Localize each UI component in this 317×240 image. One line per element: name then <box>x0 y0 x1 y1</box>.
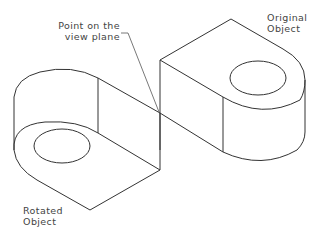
label-view-point-line1: Point on the <box>50 20 120 31</box>
label-view-point-line2: view plane <box>50 31 120 42</box>
label-view-point: Point on the view plane <box>50 20 120 42</box>
rotated-bottom-face <box>14 122 160 210</box>
original-bottom-edge <box>160 113 305 161</box>
label-original-object: Original Object <box>267 12 307 34</box>
label-rotated-line2: Object <box>23 216 63 227</box>
original-object <box>160 19 305 161</box>
label-rotated-object: Rotated Object <box>23 205 63 227</box>
original-hole <box>230 61 286 95</box>
rotated-object <box>14 69 160 210</box>
label-original-line1: Original <box>267 12 307 23</box>
rotated-hole <box>34 129 90 163</box>
label-rotated-line1: Rotated <box>23 205 63 216</box>
diagram-canvas <box>0 0 317 240</box>
label-original-line2: Object <box>267 23 307 34</box>
leader-line <box>121 33 159 112</box>
